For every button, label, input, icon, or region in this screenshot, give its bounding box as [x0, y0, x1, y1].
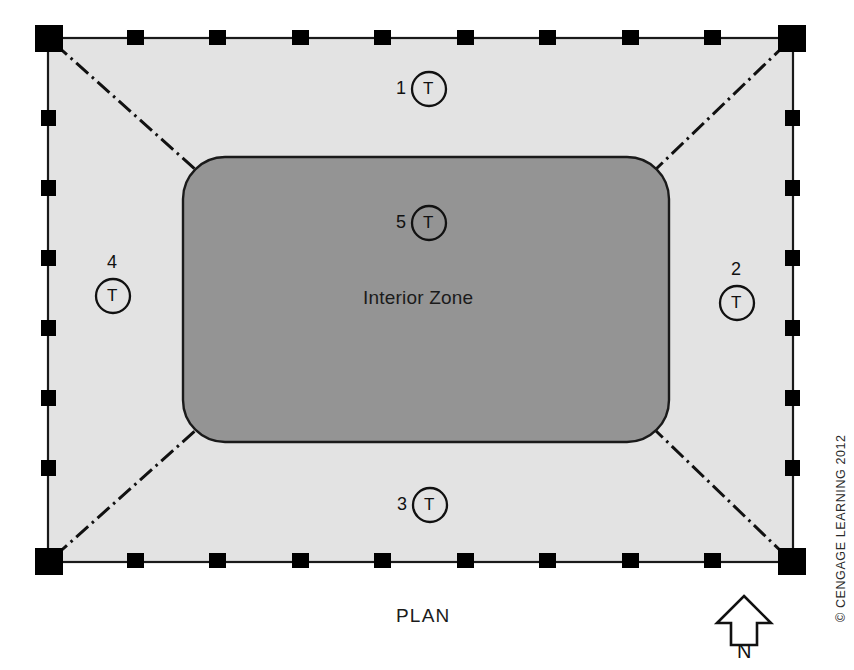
thermostat-3-number: 3: [397, 495, 407, 513]
perimeter-column: [785, 320, 800, 336]
perimeter-column: [539, 30, 556, 45]
perimeter-column: [292, 30, 309, 45]
copyright-credit: © CENGAGE LEARNING 2012: [834, 434, 848, 622]
perimeter-column: [41, 110, 56, 126]
thermostat-5-number: 5: [396, 213, 406, 231]
perimeter-column: [785, 390, 800, 406]
perimeter-column: [127, 30, 144, 45]
thermostat-2-number: 2: [731, 260, 741, 278]
corner-column-ne: [778, 25, 806, 52]
perimeter-column: [457, 30, 474, 45]
perimeter-column: [374, 30, 391, 45]
floor-plan-figure: 1 T 5 T 3 T 4 T 2 T Interior Zone PLAN N…: [0, 0, 854, 670]
corner-column-sw: [35, 548, 63, 575]
perimeter-column: [457, 553, 474, 568]
interior-zone-label: Interior Zone: [363, 288, 473, 307]
corner-column-nw: [35, 25, 63, 52]
thermostat-4-number: 4: [107, 253, 117, 271]
perimeter-column: [41, 460, 56, 476]
perimeter-column: [209, 30, 226, 45]
thermostat-4-letter: T: [107, 287, 117, 304]
thermostat-1-number: 1: [396, 79, 406, 97]
north-arrow-label: N: [737, 641, 751, 661]
perimeter-column: [785, 250, 800, 266]
perimeter-column: [785, 110, 800, 126]
thermostat-5-letter: T: [423, 214, 433, 231]
thermostat-2-letter: T: [731, 294, 741, 311]
perimeter-column: [622, 30, 639, 45]
floor-plan-drawing: [0, 0, 854, 670]
perimeter-column: [41, 320, 56, 336]
thermostat-3-letter: T: [424, 496, 434, 513]
perimeter-column: [41, 250, 56, 266]
perimeter-column: [209, 553, 226, 568]
thermostat-1-letter: T: [423, 80, 433, 97]
north-arrow-icon: [717, 596, 771, 645]
perimeter-column: [41, 180, 56, 196]
perimeter-column: [704, 30, 721, 45]
corner-column-se: [778, 548, 806, 575]
perimeter-column: [292, 553, 309, 568]
perimeter-column: [539, 553, 556, 568]
perimeter-column: [41, 390, 56, 406]
north-arrow-outline: [717, 596, 771, 645]
plan-caption: PLAN: [396, 606, 450, 625]
perimeter-column: [374, 553, 391, 568]
perimeter-column: [127, 553, 144, 568]
perimeter-column: [785, 460, 800, 476]
perimeter-column: [704, 553, 721, 568]
perimeter-column: [785, 180, 800, 196]
perimeter-column: [622, 553, 639, 568]
